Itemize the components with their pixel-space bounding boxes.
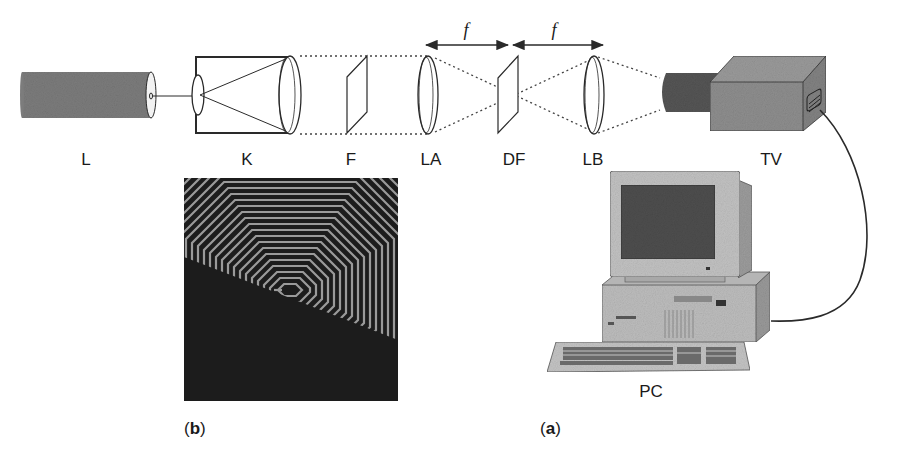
label-PC: PC <box>639 382 663 402</box>
camera-cable <box>771 110 867 321</box>
lens-LB <box>584 56 604 134</box>
optical-setup-figure: f f L K F LA DF LB TV PC (b) (a) <box>0 0 904 455</box>
focal-length-label-1: f <box>463 20 468 41</box>
laser-L <box>20 72 198 118</box>
focal-length-label-2: f <box>551 20 556 41</box>
tv-camera <box>662 56 826 131</box>
pc-computer <box>547 171 770 372</box>
diffractive-filter-DF <box>498 56 518 133</box>
interference-pattern-image <box>144 152 436 428</box>
lens-LA <box>418 56 438 134</box>
panel-label-a: (a) <box>540 419 561 439</box>
filter-F <box>347 56 367 133</box>
focused-beam <box>435 57 660 133</box>
label-TV: TV <box>760 150 782 170</box>
label-LA: LA <box>421 150 442 170</box>
label-LB: LB <box>583 150 604 170</box>
label-K: K <box>241 150 252 170</box>
panel-label-b: (b) <box>184 419 206 439</box>
collimator-K <box>192 56 301 134</box>
label-L: L <box>81 150 90 170</box>
label-F: F <box>346 150 356 170</box>
label-DF: DF <box>503 150 526 170</box>
